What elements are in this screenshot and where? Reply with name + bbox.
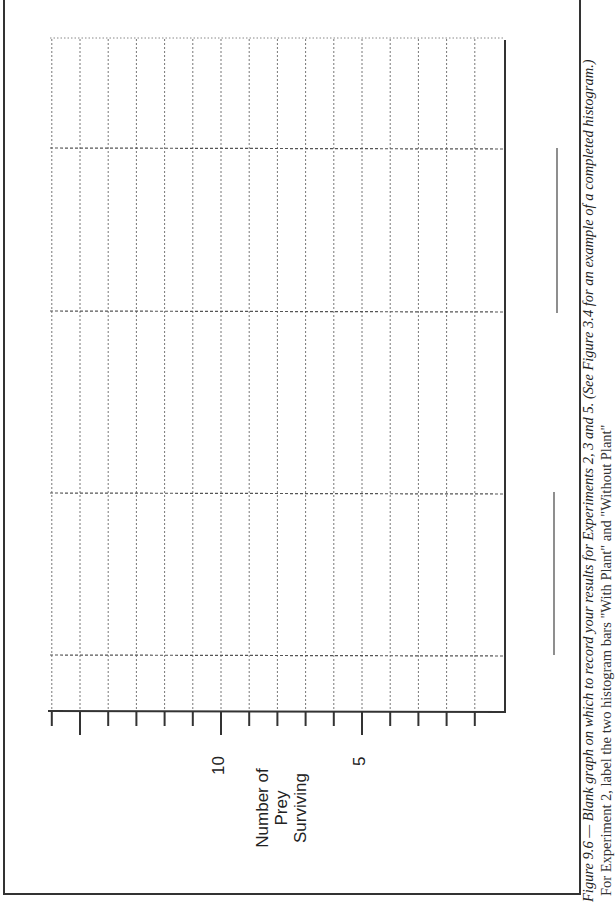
- tick-label-5: 5: [350, 757, 370, 766]
- axis-label-line: Number of: [253, 743, 272, 873]
- figure-caption-body: For Experiment 2, label the two histogra…: [598, 424, 615, 896]
- figure-caption: Figure 9.6 — Blank graph on which to rec…: [580, 59, 597, 902]
- axis-label-line: Prey: [272, 743, 291, 873]
- axis-label-line: Surviving: [291, 743, 310, 873]
- value-gridlines: [52, 39, 475, 710]
- tick-label-10: 10: [209, 756, 229, 775]
- value-axis-ticks: [52, 711, 475, 735]
- value-axis-label: Number of Prey Surviving: [253, 743, 310, 873]
